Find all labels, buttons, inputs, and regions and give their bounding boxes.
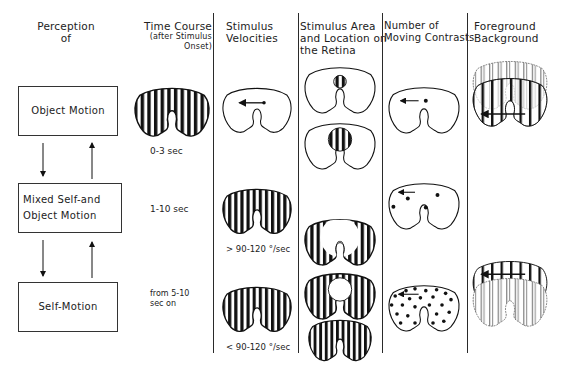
time-label-5-10: from 5-10 sec on xyxy=(150,289,189,309)
retina-striped-slow xyxy=(222,285,292,337)
header-moving-contrasts: Number of Moving Contrasts xyxy=(384,20,474,44)
retina-outline-velocity-arrow xyxy=(222,87,292,137)
retina-single-contrast xyxy=(388,87,460,137)
retina-striped-time xyxy=(134,86,210,142)
divider-4 xyxy=(467,13,468,353)
velocity-label-slow: < 90-120 °/sec xyxy=(226,342,290,352)
velocity-label-fast: > 90-120 °/sec xyxy=(226,244,290,254)
header-stimulus-area: Stimulus Area and Location on the Retina xyxy=(300,20,387,56)
retina-peripheral-large xyxy=(304,218,376,270)
time-label-0-3: 0-3 sec xyxy=(150,146,183,156)
header-stimulus-velocities: Stimulus Velocities xyxy=(226,20,278,44)
retina-peripheral-small xyxy=(304,272,376,324)
retina-small-central-stimulus xyxy=(304,66,376,118)
foreground-background-self xyxy=(472,261,548,333)
retina-few-contrasts xyxy=(388,183,460,233)
foreground-background-object xyxy=(472,61,548,133)
header-foreground-background: Foreground Background xyxy=(474,20,539,44)
retina-many-contrasts xyxy=(388,284,460,336)
arrows-perception xyxy=(0,0,140,384)
divider-1 xyxy=(213,13,214,353)
divider-3 xyxy=(382,13,383,353)
divider-2 xyxy=(298,13,299,353)
retina-large-central-stimulus xyxy=(304,122,376,174)
retina-striped-fast xyxy=(222,187,292,239)
retina-full-field xyxy=(304,320,376,364)
header-time-course-title: Time Course xyxy=(144,20,212,32)
time-label-1-10: 1-10 sec xyxy=(150,204,188,214)
